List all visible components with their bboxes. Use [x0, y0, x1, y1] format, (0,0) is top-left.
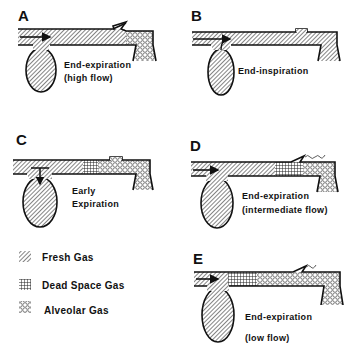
valve-icon: [110, 157, 122, 160]
legend-label: Dead Space Gas: [42, 280, 125, 291]
reservoir-bag: [26, 48, 56, 92]
tube-alveolar-gas: [126, 31, 156, 61]
tube-fresh-gas: [191, 162, 275, 176]
panel-e: E End-expiration (low flow): [193, 250, 343, 343]
caption-line1: End-expiration: [242, 191, 309, 201]
legend-label: Fresh Gas: [42, 252, 94, 263]
legend-item-alveolar-gas: Alveolar Gas: [19, 301, 109, 316]
reservoir-bag: [201, 178, 233, 228]
caption-line2: (intermediate flow): [242, 205, 328, 215]
valve-icon: [296, 29, 307, 32]
legend: Fresh Gas Dead Space Gas Alveolar Gas: [19, 251, 125, 316]
legend-item-dead-space-gas: Dead Space Gas: [19, 279, 125, 291]
legend-label: Alveolar Gas: [44, 305, 109, 316]
legend-item-fresh-gas: Fresh Gas: [19, 251, 94, 263]
panel-d: D End-expiration (intermediate flow): [190, 137, 338, 228]
caption-line1: End-expiration: [245, 312, 312, 322]
caption-line1: Early: [72, 186, 96, 196]
panel-letter-a: A: [18, 7, 29, 24]
tube-alveolar-gas: [98, 160, 153, 190]
caption-line1: End-expiration: [64, 60, 131, 70]
tube-dead-space-gas: [228, 272, 257, 286]
tube-fresh-gas: [13, 160, 83, 174]
panel-c: C Early Expiration: [13, 131, 153, 227]
alveolar-gas-swatch-icon: [19, 301, 31, 313]
caption-line2: (low flow): [245, 333, 290, 343]
reservoir-bag: [23, 177, 57, 227]
caption-line1: End-inspiration: [238, 66, 309, 76]
reservoir-bag: [202, 288, 234, 342]
panel-b: B End-inspiration: [191, 7, 340, 95]
breathing-circuit-diagram: A End-expiration (high flow) B End-inspi…: [0, 0, 352, 354]
exhaust-gas-icon: [305, 155, 325, 159]
tube-dead-space-gas: [83, 160, 98, 174]
caption-line2: Expiration: [72, 199, 119, 209]
panel-a: A End-expiration (high flow): [18, 7, 156, 92]
panel-letter-d: D: [190, 137, 201, 154]
panel-letter-c: C: [16, 131, 27, 148]
caption-line2: (high flow): [64, 73, 113, 83]
panel-letter-b: B: [191, 7, 202, 24]
tube-alveolar-gas: [257, 272, 343, 305]
fresh-gas-swatch-icon: [19, 251, 31, 262]
reservoir-bag: [208, 49, 234, 95]
panel-letter-e: E: [193, 250, 203, 267]
exhaust-gas-icon: [306, 265, 316, 268]
tube-dead-space-gas: [275, 162, 303, 176]
dead-space-gas-swatch-icon: [19, 279, 31, 290]
